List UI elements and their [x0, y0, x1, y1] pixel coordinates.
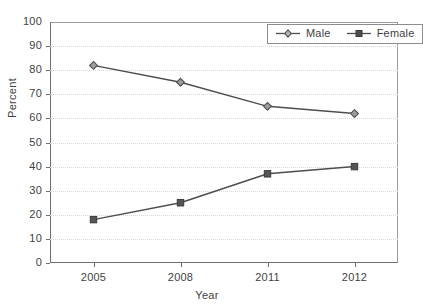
x-tick-label: 2008 — [151, 271, 211, 283]
y-tick-label: 20 — [2, 209, 42, 220]
y-tick-label: 90 — [2, 40, 42, 51]
y-tick-label: 10 — [2, 233, 42, 244]
legend-item-female: Female — [346, 28, 415, 39]
y-tick-mark — [46, 215, 50, 216]
x-tick-label: 2005 — [64, 271, 124, 283]
gridline — [50, 239, 398, 240]
gridline — [50, 46, 398, 47]
y-tick-label: 100 — [2, 16, 42, 27]
x-axis-title: Year — [0, 289, 414, 301]
y-tick-mark — [46, 239, 50, 240]
y-tick-mark — [46, 263, 50, 264]
gridline — [50, 94, 398, 95]
y-tick-mark — [46, 167, 50, 168]
y-tick-label: 40 — [2, 161, 42, 172]
y-tick-mark — [46, 70, 50, 71]
gridline — [50, 143, 398, 144]
y-tick-mark — [46, 191, 50, 192]
legend-item-male: Male — [275, 28, 331, 39]
y-tick-label: 30 — [2, 185, 42, 196]
y-tick-mark — [46, 118, 50, 119]
y-tick-label: 0 — [2, 257, 42, 268]
x-tick-mark — [355, 263, 356, 267]
x-tick-mark — [268, 263, 269, 267]
y-tick-label: 80 — [2, 64, 42, 75]
legend-label-male: Male — [306, 28, 331, 39]
gridline — [50, 215, 398, 216]
y-axis-title: Percent — [6, 78, 18, 118]
y-tick-mark — [46, 143, 50, 144]
gridline — [50, 191, 398, 192]
gridline — [50, 118, 398, 119]
gridline — [50, 167, 398, 168]
diamond-open-marker-icon — [275, 28, 301, 39]
x-tick-mark — [181, 263, 182, 267]
x-tick-label: 2012 — [325, 271, 385, 283]
y-tick-label: 50 — [2, 137, 42, 148]
square-filled-marker-icon — [346, 28, 372, 39]
x-tick-mark — [94, 263, 95, 267]
gridline — [50, 70, 398, 71]
y-tick-mark — [46, 94, 50, 95]
y-tick-mark — [46, 46, 50, 47]
x-tick-label: 2011 — [238, 271, 298, 283]
legend-label-female: Female — [377, 28, 415, 39]
legend: Male Female — [267, 24, 423, 44]
